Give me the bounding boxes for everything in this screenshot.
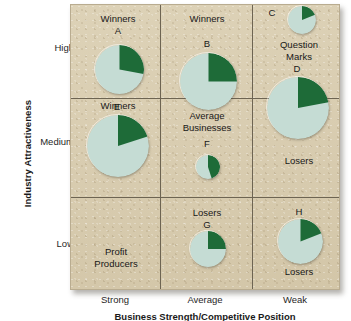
pie-label-h: H	[279, 206, 319, 217]
cell-label-low-strong: Profit Producers	[75, 246, 157, 269]
pie-label-a: A	[98, 25, 138, 36]
y-tick-high: High	[14, 42, 74, 53]
cell-label-medium-average: Average Businesses	[167, 110, 247, 133]
pie-e	[86, 114, 148, 176]
x-axis-title: Business Strength/Competitive Position	[70, 311, 340, 321]
pie-label-c: C	[263, 7, 281, 18]
pie-b	[179, 52, 236, 109]
pie-label-g: G	[187, 219, 227, 230]
pie-label-b: B	[187, 38, 227, 49]
pie-h	[277, 218, 322, 263]
pie-label-e: E	[97, 101, 137, 112]
pie-c	[287, 5, 315, 33]
cell-label-low-average: Losers	[167, 207, 247, 219]
cell-label-high-strong: Winners	[78, 13, 158, 25]
cell-label-high-average: Winners	[167, 13, 247, 25]
pie-label-f: F	[187, 138, 227, 149]
cell-label-medium-weak: Losers	[260, 155, 338, 167]
grid-hline-2	[71, 197, 339, 198]
pie-g	[189, 230, 225, 266]
chart-root: Industry Attractiveness High Medium Low …	[0, 0, 351, 321]
grid-vline-2	[252, 5, 253, 289]
x-tick-average: Average	[160, 294, 250, 305]
grid-vline-1	[160, 5, 161, 289]
pie-label-d: D	[277, 63, 317, 74]
y-axis-title: Industry Attractiveness	[22, 69, 33, 239]
cell-label-high-weak: Question Marks	[260, 39, 338, 62]
y-tick-low: Low	[14, 238, 74, 249]
x-tick-weak: Weak	[250, 294, 340, 305]
pie-f	[195, 154, 219, 178]
cell-label-low-weak: Losers	[260, 266, 338, 278]
pie-a	[94, 44, 143, 93]
pie-d	[266, 76, 328, 138]
y-tick-medium: Medium	[14, 136, 74, 147]
x-tick-strong: Strong	[70, 294, 160, 305]
